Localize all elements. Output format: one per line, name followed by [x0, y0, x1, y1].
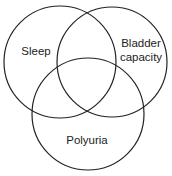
polyuria-circle [32, 58, 144, 170]
sleep-circle [4, 6, 116, 118]
venn-diagram: Sleep Bladder capacity Polyuria [0, 0, 172, 176]
bladder-capacity-label-line2: capacity [120, 51, 162, 63]
sleep-label: Sleep [21, 45, 50, 57]
polyuria-label: Polyuria [66, 134, 108, 146]
bladder-capacity-label-line1: Bladder [121, 37, 161, 49]
